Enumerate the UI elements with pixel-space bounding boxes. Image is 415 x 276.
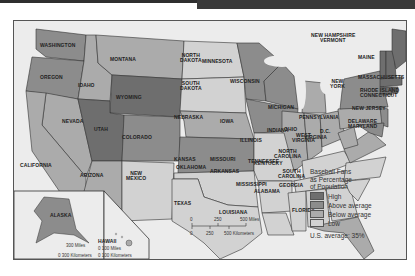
label-oklahoma: OKLAHOMA — [176, 165, 206, 170]
legend-swatch-low — [310, 219, 324, 227]
label-michigan: MICHIGAN — [268, 105, 294, 110]
label-arizona: ARIZONA — [80, 173, 103, 178]
hawaii-scale-km: 0 100 Kilometers — [98, 253, 132, 258]
label-south-carolina: SOUTHCAROLINA — [278, 169, 305, 179]
legend-swatch-high — [310, 192, 324, 200]
label-north-carolina: NORTHCAROLINA — [274, 149, 301, 159]
alaska-scale-km: 0 300 Kilometers — [58, 253, 92, 258]
label-arkansas: ARKANSAS — [210, 169, 239, 174]
legend: Baseball Fans as Percentage of Populatio… — [310, 168, 400, 239]
legend-swatch-above-average — [310, 201, 324, 209]
scale-km-0: 0 — [190, 231, 193, 236]
hawaii-scale-miles: 0 100 Miles — [98, 246, 121, 251]
top-bar-right — [197, 0, 415, 9]
label-utah: UTAH — [94, 127, 108, 132]
label-minnesota: MINNESOTA — [202, 59, 233, 64]
label-nebraska: NEBRASKA — [174, 115, 203, 120]
label-tennessee: TENNESSEE — [248, 159, 279, 164]
label-wisconsin: WISCONSIN — [230, 79, 260, 84]
scale-km-250: 250 — [206, 231, 214, 236]
label-massachusetts: MASSACHUSETTS — [358, 75, 404, 80]
label-pennsylvania: PENNSYLVANIA — [299, 115, 339, 120]
top-bar-left — [0, 0, 197, 3]
state-hawaii — [126, 240, 132, 246]
legend-item-above-average: Above average — [310, 202, 400, 209]
label-dc: D.C. — [320, 129, 330, 134]
label-connecticut: CONNECTICUT — [360, 93, 398, 98]
label-north-dakota: NORTHDAKOTA — [180, 53, 202, 63]
label-oregon: OREGON — [40, 75, 63, 80]
label-louisiana: LOUISIANA — [219, 210, 247, 215]
scale-miles-500: 500 Miles — [240, 217, 259, 222]
scale-km-500: 500 Kilometers — [224, 231, 254, 236]
label-maryland: MARYLAND — [348, 124, 377, 129]
label-iowa: IOWA — [220, 119, 234, 124]
label-maine: MAINE — [358, 55, 375, 60]
label-illinois: ILLINOIS — [240, 138, 262, 143]
label-kansas: KANSAS — [174, 157, 196, 162]
label-new-jersey: NEW JERSEY — [352, 106, 386, 111]
label-california: CALIFORNIA — [20, 163, 52, 168]
label-vermont: VERMONT — [320, 38, 346, 43]
label-alabama: ALABAMA — [254, 189, 280, 194]
label-west-virginia: WESTVIRGINIA — [292, 133, 315, 143]
label-missouri: MISSOURI — [210, 157, 236, 162]
label-new-mexico: NEWMEXICO — [126, 171, 146, 181]
alaska-scale-miles: 300 Miles — [66, 243, 85, 248]
label-new-york: NEWYORK — [330, 79, 345, 89]
label-wyoming: WYOMING — [116, 95, 142, 100]
label-nevada: NEVADA — [62, 119, 83, 124]
legend-item-low: Low — [310, 220, 400, 227]
legend-title-line3: of Population — [310, 183, 400, 191]
label-idaho: IDAHO — [78, 83, 95, 88]
label-south-dakota: SOUTHDAKOTA — [180, 81, 202, 91]
legend-item-below-average: Below average — [310, 211, 400, 218]
label-alaska: ALASKA — [50, 213, 71, 218]
label-hawaii: HAWAII — [98, 239, 116, 244]
legend-title-line1: Baseball Fans — [310, 168, 400, 176]
label-colorado: COLORADO — [122, 135, 152, 140]
label-mississippi: MISSISSIPPI — [236, 182, 267, 187]
scale-miles-250: 250 — [214, 217, 222, 222]
us-average: U.S. average: 35% — [310, 232, 400, 239]
legend-item-high: High — [310, 193, 400, 200]
label-washington: WASHINGTON — [40, 43, 75, 48]
legend-title-line2: as Percentage — [310, 176, 400, 184]
label-georgia: GEORGIA — [279, 183, 303, 188]
legend-swatch-below-average — [310, 210, 324, 218]
scale-miles-0: 0 — [190, 217, 193, 222]
label-montana: MONTANA — [110, 57, 136, 62]
label-texas: TEXAS — [174, 201, 191, 206]
